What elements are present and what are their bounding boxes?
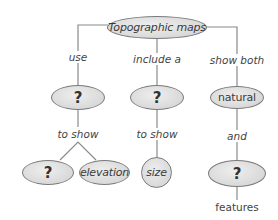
trailing-label-features: features	[213, 201, 260, 213]
node-include-unknown: ?	[130, 85, 184, 110]
link-label-and: and	[225, 130, 249, 142]
node-size: size	[141, 157, 172, 188]
question-mark: ?	[233, 165, 242, 183]
question-mark: ?	[44, 164, 53, 182]
question-mark: ?	[153, 89, 162, 107]
node-left-unknown: ?	[22, 160, 74, 185]
node-label: elevation	[80, 166, 129, 179]
link-label-to-show-middle: to show	[134, 128, 179, 140]
question-mark: ?	[74, 89, 83, 107]
node-use-unknown: ?	[51, 85, 105, 110]
node-elevation: elevation	[79, 160, 130, 185]
link-label-to-show-left: to show	[55, 128, 100, 140]
node-label: Topographic maps	[108, 21, 206, 34]
node-label: natural	[218, 91, 256, 104]
link-label-use: use	[67, 51, 90, 63]
node-label: size	[146, 166, 167, 179]
node-right-unknown: ?	[208, 160, 266, 187]
root-node-topographic-maps: Topographic maps	[107, 16, 207, 39]
node-natural: natural	[210, 86, 264, 109]
link-label-show-both: show both	[208, 54, 266, 66]
link-label-include-a: include a	[131, 53, 183, 65]
concept-map: Topographic maps use include a show both…	[0, 0, 278, 220]
